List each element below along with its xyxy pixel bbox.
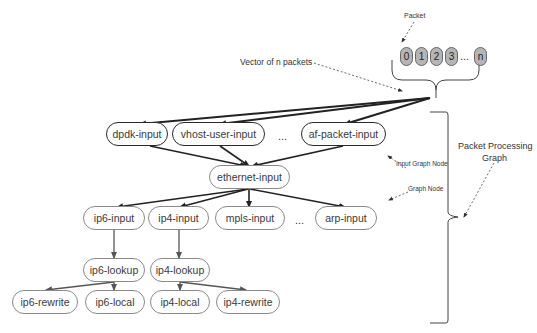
node-arp-input: arp-input — [315, 206, 377, 230]
vector-edges — [140, 98, 430, 124]
packet-label: Packet — [404, 12, 425, 19]
node-ip4-lookup: ip4-lookup — [150, 258, 210, 282]
vector-label: Vector of n packets — [240, 57, 312, 67]
packet-1: 1 — [415, 47, 428, 66]
packet-ellipsis: ... — [460, 50, 469, 62]
node-ip4-rewrite: ip4-rewrite — [216, 290, 280, 314]
input-to-ethernet-edges — [150, 146, 343, 166]
packet-3: 3 — [445, 47, 458, 66]
graph-node-label: Graph Node — [408, 185, 443, 192]
node-ip4-input: ip4-input — [148, 206, 209, 230]
node-ip4-local: ip4-local — [150, 290, 210, 314]
packet-n: n — [474, 47, 487, 66]
node-ip6-local: ip6-local — [85, 290, 145, 314]
processing-graph-label-2: Graph — [482, 153, 507, 163]
processing-graph-brace — [430, 112, 458, 323]
node-ethernet-input: ethernet-input — [209, 165, 290, 189]
processing-graph-label-1: Packet Processing — [458, 141, 533, 151]
node-mpls-input: mpls-input — [215, 206, 285, 230]
node-ip6-lookup: ip6-lookup — [83, 258, 145, 282]
node-af-packet-input: af-packet-input — [301, 122, 386, 146]
ip-edges — [46, 230, 246, 290]
node-vhost-user-input: vhost-user-input — [172, 122, 265, 146]
input-graph-node-label: Input Graph Node — [396, 160, 448, 167]
node-dpdk-input: dpdk-input — [106, 122, 168, 146]
packet-0: 0 — [400, 47, 413, 66]
packet-2: 2 — [430, 47, 443, 66]
node-ip6-input: ip6-input — [83, 206, 145, 230]
ethernet-edges — [117, 189, 345, 207]
input-row-ellipsis: ... — [278, 130, 287, 142]
node-ip6-rewrite: ip6-rewrite — [12, 290, 78, 314]
protocol-row-ellipsis: ... — [295, 214, 304, 226]
